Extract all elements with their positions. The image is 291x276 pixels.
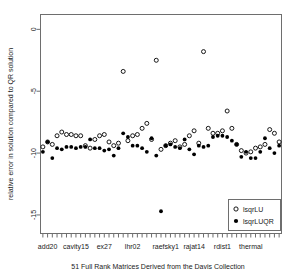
y-tick-label: -5 bbox=[30, 88, 37, 94]
x-category-label: add20 bbox=[38, 243, 58, 250]
legend-label-lsqrluqr: lsqrLUQR bbox=[243, 218, 274, 226]
data-point-filled bbox=[88, 138, 92, 142]
data-point-filled bbox=[187, 147, 191, 151]
data-point-filled bbox=[102, 149, 106, 153]
data-point-filled bbox=[239, 155, 243, 159]
data-point-filled bbox=[173, 145, 177, 149]
data-point-filled bbox=[135, 144, 139, 148]
data-point-filled bbox=[221, 134, 225, 138]
x-category-label: raefsky1 bbox=[152, 243, 179, 251]
data-point-filled bbox=[254, 156, 258, 160]
data-point-filled bbox=[69, 145, 73, 149]
legend-label-lsqrlu: lsqrLU bbox=[243, 206, 263, 214]
data-point-filled bbox=[65, 145, 69, 149]
legend-box bbox=[229, 200, 281, 231]
data-point-filled bbox=[235, 143, 239, 147]
data-point-filled bbox=[268, 146, 272, 150]
data-point-filled bbox=[216, 134, 220, 138]
data-point-filled bbox=[159, 209, 163, 213]
data-point-filled bbox=[131, 144, 135, 148]
data-point-filled bbox=[263, 136, 267, 140]
y-axis-title: relative error in solution compared to Q… bbox=[7, 48, 15, 200]
data-point-filled bbox=[154, 154, 158, 158]
x-category-label: cavity15 bbox=[63, 243, 89, 251]
data-point-filled bbox=[211, 135, 215, 139]
data-point-filled bbox=[197, 144, 201, 148]
y-tick-label: -15 bbox=[30, 210, 37, 220]
data-point-filled bbox=[50, 156, 54, 160]
figure-background bbox=[0, 0, 291, 276]
data-point-filled bbox=[192, 152, 196, 156]
data-point-filled bbox=[112, 154, 116, 158]
data-point-filled bbox=[55, 146, 59, 150]
data-point-filled bbox=[145, 150, 149, 154]
x-category-label: rdist1 bbox=[214, 243, 231, 250]
data-point-filled bbox=[183, 138, 187, 142]
data-point-filled bbox=[258, 150, 262, 154]
x-category-label: rajat14 bbox=[183, 243, 205, 251]
data-point-filled bbox=[126, 135, 130, 139]
data-point-filled bbox=[140, 146, 144, 150]
data-point-filled bbox=[150, 136, 154, 140]
data-point-filled bbox=[244, 150, 248, 154]
data-point-filled bbox=[93, 146, 97, 150]
data-point-filled bbox=[164, 144, 168, 148]
data-point-filled bbox=[178, 146, 182, 150]
scatter-plot-canvas: 0-5-10-15 add20cavity15ex27lhr02raefsky1… bbox=[0, 0, 291, 276]
x-category-label: lhr02 bbox=[125, 243, 141, 250]
x-category-label: thermal bbox=[239, 243, 263, 250]
chart-legend[interactable]: lsqrLU lsqrLUQR bbox=[229, 200, 281, 231]
y-tick-label: -10 bbox=[30, 148, 37, 158]
data-point-filled bbox=[46, 140, 50, 144]
y-tick-label: 0 bbox=[30, 27, 37, 31]
data-point-filled bbox=[273, 151, 277, 155]
data-point-filled bbox=[277, 144, 281, 148]
x-category-label: ex27 bbox=[97, 243, 112, 250]
data-point-filled bbox=[117, 146, 121, 150]
data-point-filled bbox=[121, 131, 125, 135]
data-point-filled bbox=[107, 147, 111, 151]
data-point-filled bbox=[79, 145, 83, 149]
data-point-filled bbox=[169, 143, 173, 147]
data-point-filled bbox=[225, 135, 229, 139]
data-point-filled bbox=[83, 145, 87, 149]
data-point-filled bbox=[230, 139, 234, 143]
chart-figure: 0-5-10-15 add20cavity15ex27lhr02raefsky1… bbox=[0, 0, 291, 276]
data-point-filled bbox=[249, 156, 253, 160]
data-point-filled bbox=[98, 146, 102, 150]
legend-marker-filled-circle-icon bbox=[234, 219, 238, 223]
data-point-filled bbox=[206, 144, 210, 148]
data-point-filled bbox=[202, 145, 206, 149]
data-point-filled bbox=[60, 147, 64, 151]
x-axis-title: 51 Full Rank Matrices Derived from the D… bbox=[71, 263, 245, 270]
data-point-filled bbox=[41, 150, 45, 154]
data-point-filled bbox=[74, 146, 78, 150]
